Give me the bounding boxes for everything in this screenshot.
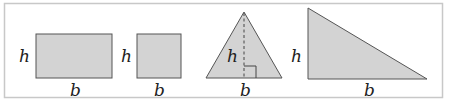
rectangle-base-label: b: [70, 80, 81, 100]
rectangle-shape: [36, 34, 112, 78]
right-triangle-base-label: b: [364, 80, 375, 100]
square-base-label: b: [154, 80, 165, 100]
square-height-label: h: [121, 46, 132, 66]
area-shapes-diagram: h b h b h b h b: [0, 0, 456, 103]
isosceles-height-label: h: [227, 46, 238, 66]
right-triangle-height-label: h: [291, 46, 302, 66]
rectangle-height-label: h: [19, 46, 30, 66]
square-shape: [137, 34, 181, 78]
isosceles-base-label: b: [240, 80, 251, 100]
